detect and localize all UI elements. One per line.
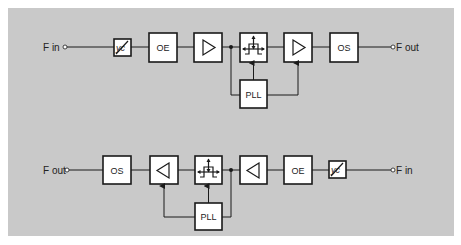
bottom-os-block: OS (103, 156, 131, 184)
top-pll-block: PLL (240, 80, 267, 108)
bottom-amplifier-block-1 (240, 156, 267, 184)
top-pll-to-amp-wire (267, 63, 298, 95)
top-output-label: F out (396, 42, 419, 53)
bottom-input-label: F in (396, 165, 413, 176)
svg-text:OS: OS (110, 166, 123, 176)
top-tunable-filter-block (240, 33, 267, 62)
top-output-terminal (391, 45, 395, 49)
top-oe-block: OE (149, 33, 177, 62)
bottom-phase-shifter-block: yc (329, 161, 346, 178)
top-phase-shifter-block: yc (114, 39, 131, 56)
svg-text:OE: OE (291, 166, 304, 176)
svg-text:yc: yc (330, 165, 341, 175)
svg-text:OE: OE (156, 43, 169, 53)
block-diagram: F in yc OE (0, 0, 461, 245)
svg-text:PLL: PLL (200, 212, 216, 222)
svg-text:OS: OS (337, 43, 350, 53)
top-amplifier-block-2 (284, 33, 312, 62)
top-amplifier-block-1 (194, 33, 222, 62)
bottom-pll-input-wire (222, 170, 231, 217)
top-pll-input-wire (231, 47, 240, 95)
bottom-output-terminal (65, 168, 69, 172)
bottom-amplifier-block-2 (150, 156, 178, 184)
top-os-block: OS (330, 33, 358, 62)
bottom-chain: F out OS (43, 156, 413, 230)
bottom-oe-block: OE (284, 156, 312, 184)
bottom-pll-block: PLL (195, 203, 222, 230)
top-chain: F in yc OE (43, 33, 419, 108)
top-input-label: F in (43, 42, 60, 53)
svg-text:PLL: PLL (245, 90, 261, 100)
bottom-tunable-filter-block (195, 156, 222, 184)
top-input-terminal (63, 45, 67, 49)
bottom-input-terminal (391, 168, 395, 172)
bottom-output-label: F out (43, 165, 66, 176)
svg-text:yc: yc (115, 43, 126, 53)
bottom-pll-to-amp-wire (164, 186, 195, 217)
